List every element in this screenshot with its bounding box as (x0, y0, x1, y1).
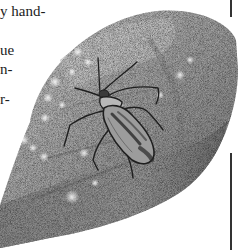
insect-on-leaf-illustration (0, 0, 238, 250)
